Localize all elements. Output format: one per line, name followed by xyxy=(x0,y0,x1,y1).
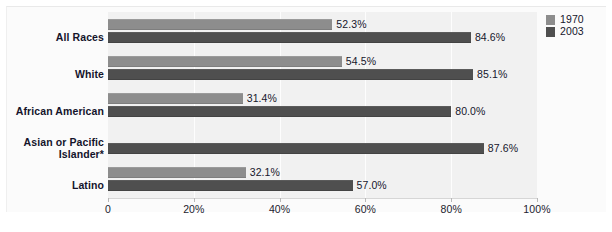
tick-mark-60 xyxy=(365,198,366,202)
bar-value-white-2003: 85.1% xyxy=(477,68,507,80)
category-label-text: White xyxy=(0,68,104,80)
bar-value-all-races-1970: 52.3% xyxy=(336,18,366,30)
category-label-text: African American xyxy=(0,105,104,117)
x-tick-label-80: 80% xyxy=(421,203,481,215)
tick-mark-100 xyxy=(537,198,538,202)
tick-mark-0 xyxy=(108,198,109,202)
bar-all-races-1970 xyxy=(108,19,332,30)
bar-value-latino-1970: 32.1% xyxy=(250,166,280,178)
bar-asian-or-pacific-islander-2003 xyxy=(108,143,484,154)
legend-swatch-1970-icon xyxy=(546,15,555,25)
tick-mark-20 xyxy=(194,198,195,202)
bar-latino-2003 xyxy=(108,180,353,191)
category-label-text: Latino xyxy=(0,179,104,191)
bar-value-african-american-1970: 31.4% xyxy=(247,92,277,104)
x-tick-label-40: 40% xyxy=(250,203,310,215)
legend-label-1970: 1970 xyxy=(560,14,584,25)
x-tick-label-100: 100% xyxy=(507,203,567,215)
chart-legend: 1970 2003 xyxy=(546,14,604,38)
legend-item-1970: 1970 xyxy=(546,14,604,25)
legend-swatch-2003-icon xyxy=(546,27,555,37)
bar-white-2003 xyxy=(108,69,473,80)
legend-label-2003: 2003 xyxy=(560,26,584,37)
bar-african-american-2003 xyxy=(108,106,451,117)
bar-african-american-1970 xyxy=(108,93,243,104)
legend-item-2003: 2003 xyxy=(546,26,604,37)
tick-mark-80 xyxy=(451,198,452,202)
bar-all-races-2003 xyxy=(108,32,471,43)
x-axis-line xyxy=(108,198,537,199)
tick-mark-40 xyxy=(280,198,281,202)
bar-chart: 0 20% 40% 60% 80% 100% All Races White A… xyxy=(0,0,612,232)
category-label-text: Asian or Pacific Islander* xyxy=(0,136,104,160)
bar-value-asian-or-pacific-islander-2003: 87.6% xyxy=(488,142,518,154)
bar-value-all-races-2003: 84.6% xyxy=(475,31,505,43)
x-tick-label-60: 60% xyxy=(335,203,395,215)
bar-latino-1970 xyxy=(108,167,246,178)
x-tick-label-20: 20% xyxy=(164,203,224,215)
category-label-text: All Races xyxy=(0,31,104,43)
bar-value-white-1970: 54.5% xyxy=(346,55,376,67)
bar-white-1970 xyxy=(108,56,342,67)
bar-value-african-american-2003: 80.0% xyxy=(455,105,485,117)
x-tick-label-0: 0 xyxy=(78,203,138,215)
bar-value-latino-2003: 57.0% xyxy=(357,179,387,191)
